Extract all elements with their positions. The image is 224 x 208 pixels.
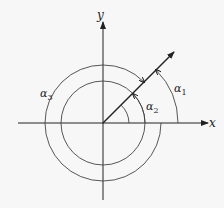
x-axis-label: x	[209, 116, 216, 130]
alpha2-small-arc	[121, 105, 129, 123]
angle-diagram: y x α1 α2 α3	[0, 0, 224, 208]
ray-vector	[103, 52, 174, 123]
alpha2-label: α2	[146, 100, 159, 115]
alpha1-arc	[156, 70, 178, 123]
alpha1-label: α1	[174, 82, 187, 97]
alpha3-label: α3	[40, 87, 53, 102]
y-axis-label: y	[96, 8, 104, 22]
diagram-svg: y x α1 α2 α3	[0, 0, 224, 208]
